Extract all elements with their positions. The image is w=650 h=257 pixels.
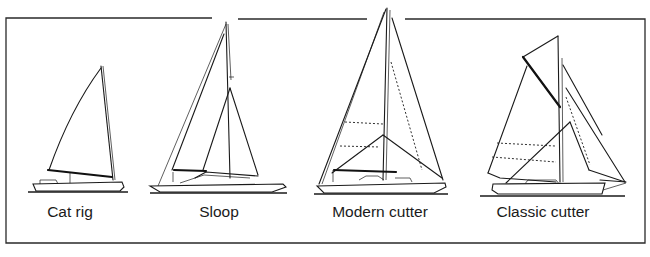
label-sloop: Sloop bbox=[199, 203, 239, 221]
label-classic-cutter: Classic cutter bbox=[496, 203, 589, 221]
label-modern-cutter: Modern cutter bbox=[332, 203, 428, 221]
sloop-boat bbox=[150, 22, 287, 193]
classic-cutter-boat bbox=[480, 36, 626, 196]
label-cat-rig: Cat rig bbox=[47, 203, 93, 221]
modern-cutter-boat bbox=[314, 8, 448, 194]
cat-rig-boat bbox=[28, 66, 128, 192]
